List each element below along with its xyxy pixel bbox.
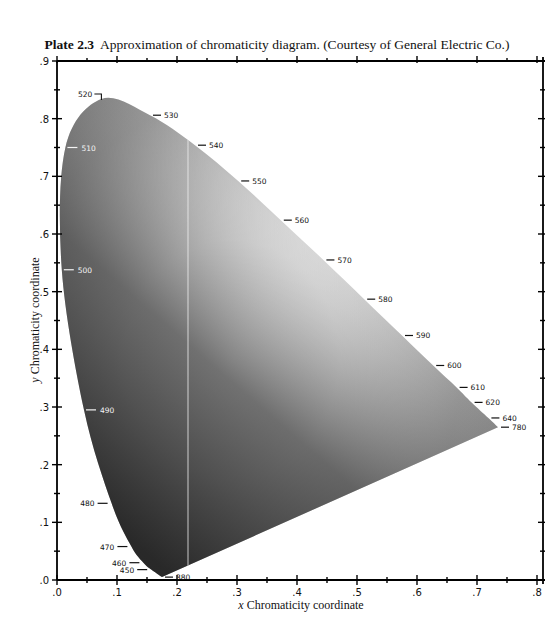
wavelength-label: 550: [252, 177, 267, 186]
wavelength-label: 590: [416, 331, 431, 340]
wavelength-label: 600: [447, 361, 462, 370]
wavelength-label: 610: [471, 383, 486, 392]
x-tick-label: .6: [412, 587, 422, 598]
wavelength-label: 510: [81, 144, 96, 153]
x-tick-label: .4: [292, 587, 302, 598]
x-tick-label: .8: [532, 587, 542, 598]
wavelength-label: 780: [512, 423, 527, 432]
y-tick-label: .6: [39, 229, 49, 240]
x-tick-label: .1: [112, 587, 122, 598]
wavelength-label: 480: [80, 499, 95, 508]
wavelength-label: 640: [502, 414, 517, 423]
wavelength-label: 570: [337, 256, 352, 265]
wavelength-label: 460: [112, 559, 127, 568]
wavelength-label: 540: [209, 141, 224, 150]
y-tick-label: .8: [39, 114, 49, 125]
x-tick-label: .5: [352, 587, 362, 598]
x-tick-label: .0: [52, 587, 62, 598]
y-tick-label: .0: [39, 575, 49, 586]
wavelength-label: 530: [164, 111, 179, 120]
wavelength-label: 620: [486, 398, 501, 407]
y-tick-label: .1: [39, 517, 49, 528]
y-tick-label: .2: [39, 460, 49, 471]
wavelength-label: 470: [100, 543, 115, 552]
wavelength-label: 380: [176, 573, 191, 582]
x-tick-label: .7: [472, 587, 482, 598]
x-tick-label: .3: [232, 587, 242, 598]
wavelength-label: 500: [78, 266, 93, 275]
y-axis-title: y Chromaticity coordinate: [28, 257, 42, 383]
y-tick-label: .7: [39, 171, 49, 182]
y-tick-label: .3: [39, 402, 49, 413]
wavelength-label: 580: [378, 295, 393, 304]
wavelength-label: 490: [100, 406, 115, 415]
y-tick-label: .9: [39, 56, 49, 67]
plot-area: .0.1.2.3.4.5.6.7.8.0.1.2.3.4.5.6.7.8.9x …: [0, 0, 554, 619]
x-axis-title: x Chromaticity coordinate: [237, 598, 363, 612]
chromaticity-chart: .0.1.2.3.4.5.6.7.8.0.1.2.3.4.5.6.7.8.9x …: [0, 0, 554, 619]
x-tick-label: .2: [172, 587, 182, 598]
wavelength-label: 520: [78, 90, 93, 99]
wavelength-label: 560: [295, 216, 310, 225]
